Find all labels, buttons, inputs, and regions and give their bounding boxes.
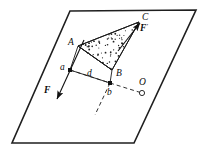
- stipple-dot: [91, 42, 92, 43]
- figure-canvas: ABCabO d FF': [0, 0, 204, 155]
- stipple-dot: [115, 52, 117, 54]
- stipple-dot: [107, 63, 108, 64]
- point-marker-b: [108, 81, 112, 85]
- stipple-dot: [115, 39, 116, 40]
- stipple-dot: [107, 44, 109, 46]
- vector-label-F: F: [43, 85, 51, 95]
- physics-figure: ABCabO d FF': [0, 0, 204, 155]
- stipple-dot: [123, 35, 124, 36]
- stipple-dot: [110, 55, 111, 56]
- stipple-dot: [85, 44, 87, 46]
- stipple-dot: [125, 30, 126, 31]
- stipple-dot: [101, 52, 102, 53]
- stipple-dot: [109, 61, 110, 62]
- stipple-dot: [107, 38, 109, 40]
- stipple-dot: [98, 47, 99, 48]
- stipple-dot: [88, 42, 90, 44]
- point-label-O: O: [139, 77, 146, 87]
- stipple-dot: [93, 54, 94, 55]
- stipple-dot: [121, 37, 122, 38]
- stipple-dot: [121, 39, 122, 40]
- distance-label-d: d: [87, 68, 92, 78]
- point-marker-a: [68, 68, 72, 72]
- stipple-dot: [95, 45, 96, 46]
- point-label-B: B: [116, 68, 122, 78]
- stipple-dot: [123, 46, 124, 47]
- stipple-dot: [116, 35, 117, 36]
- point-marker-O: [139, 90, 144, 95]
- vector-label-prime-Fprime: ': [146, 22, 148, 29]
- stipple-dot: [110, 51, 112, 53]
- stipple-dot: [110, 54, 111, 55]
- stipple-dot: [105, 45, 106, 46]
- stipple-dot: [87, 46, 88, 47]
- stipple-dot: [119, 34, 120, 35]
- stipple-dot: [108, 37, 109, 38]
- stipple-dot: [113, 41, 115, 43]
- stipple-dot: [111, 38, 113, 40]
- stipple-dot: [91, 46, 93, 48]
- stipple-dot: [105, 52, 107, 54]
- stipple-dot: [119, 38, 120, 39]
- point-label-b: b: [107, 87, 112, 97]
- stipple-dot: [93, 40, 95, 42]
- point-label-C: C: [142, 12, 149, 22]
- stipple-dot: [98, 41, 100, 43]
- stipple-dot: [132, 29, 133, 30]
- stipple-dot: [99, 43, 100, 44]
- reference-plane: [12, 10, 196, 143]
- stipple-dot: [114, 33, 116, 35]
- stipple-dot: [97, 55, 98, 56]
- point-label-A: A: [67, 37, 74, 47]
- stipple-dot: [88, 45, 90, 47]
- point-label-a: a: [60, 62, 65, 72]
- stipple-dot: [113, 49, 114, 50]
- stipple-dot: [102, 57, 103, 58]
- stipple-dot: [118, 45, 119, 46]
- stipple-dot: [88, 49, 90, 51]
